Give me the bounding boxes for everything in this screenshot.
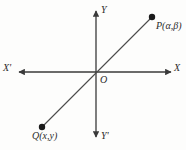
origin-label: O [100,75,107,85]
coordinate-plane-diagram: X' X Y Y' O P(α,β) Q(x,y) [0,0,186,150]
x-negative-axis-label: X' [3,63,11,73]
point-p-marker [149,14,155,20]
y-negative-axis-label: Y' [101,131,109,141]
x-positive-axis-label: X [174,63,180,73]
point-q-label: Q(x,y) [32,131,57,141]
point-p-label: P(α,β) [156,21,182,31]
y-positive-axis-label: Y [101,5,107,15]
